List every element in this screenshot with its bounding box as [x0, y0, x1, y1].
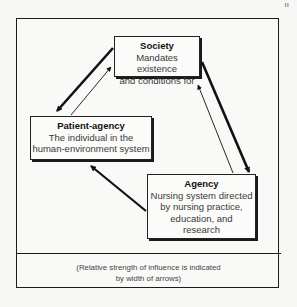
arrow-society-to-agency — [202, 62, 249, 172]
node-society-line: and conditions for — [115, 75, 199, 87]
node-society-line: Mandates existence — [115, 52, 199, 75]
node-patient-line: The individual in the — [31, 132, 151, 144]
node-agency-line: Nursing system directed — [148, 190, 255, 202]
legend-note-line: by width of arrows) — [16, 273, 281, 284]
node-agency-line: education, and — [148, 213, 255, 225]
node-agency-title: Agency — [148, 178, 255, 190]
node-society: Society Mandates existence and condition… — [114, 36, 200, 77]
node-agency-line: research — [148, 224, 255, 236]
node-patient-agency: Patient-agency The individual in the hum… — [30, 116, 152, 160]
arrow-society-to-patient — [57, 48, 113, 111]
arrow-agency-to-society — [198, 85, 233, 173]
node-agency-line: by nursing practice, — [148, 201, 255, 213]
node-society-title: Society — [115, 40, 199, 52]
arrow-agency-to-patient — [91, 166, 146, 211]
node-agency: Agency Nursing system directed by nursin… — [147, 174, 256, 239]
node-patient-line: human-environment system — [31, 143, 151, 155]
node-patient-title: Patient-agency — [31, 120, 151, 132]
legend-note-line: (Relative strength of influence is indic… — [16, 262, 281, 273]
legend-note: (Relative strength of influence is indic… — [16, 262, 281, 284]
